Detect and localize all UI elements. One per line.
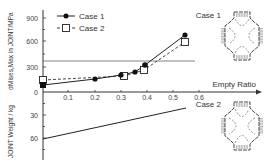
x-tick-0.4: 0.4	[142, 94, 152, 101]
y-axis-label-bottom: JOINT Weight / kg	[7, 105, 15, 158]
legend-case2: Case 2	[79, 24, 105, 33]
y-tick-600: 600	[26, 38, 38, 45]
legend: Case 1 Case 2	[57, 12, 105, 33]
y-tick-0: 0	[34, 89, 38, 96]
y-axis-label-top: σMises,Max in JOINT/MPa	[7, 12, 14, 90]
x-tick-0.3: 0.3	[116, 94, 126, 101]
series-case1-markers	[40, 32, 188, 88]
inset-case1-label: Case 1	[196, 11, 222, 20]
x-tick-0.1: 0.1	[63, 94, 73, 101]
y-tick-900: 900	[26, 15, 38, 22]
y-tick-300: 300	[26, 64, 38, 71]
x-tick-0.2: 0.2	[90, 94, 100, 101]
x-tick-0.5: 0.5	[168, 94, 178, 101]
joint-diagram-case1-icon	[222, 12, 262, 60]
inset-case2-label: Case 2	[196, 100, 222, 109]
x-axis-label: Empty Ratio	[212, 80, 256, 89]
series-weight-line	[43, 108, 186, 139]
x-axis-arrow-icon	[256, 90, 262, 95]
series-case1-line	[43, 35, 185, 85]
chart-canvas: 900 600 300 0 30 60 0.1 0.2 0.3 0.4 0.5 …	[0, 0, 274, 166]
legend-case1: Case 1	[79, 12, 105, 21]
joint-diagram-case2-icon	[222, 102, 262, 150]
y-tick-30: 30	[30, 112, 38, 119]
y-tick-60: 60	[30, 135, 38, 142]
